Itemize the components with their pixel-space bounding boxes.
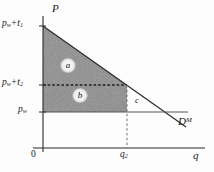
diagram-canvas	[0, 0, 214, 172]
region-label-a: a	[60, 61, 76, 70]
sup-m: M	[186, 116, 192, 124]
price-label-pw-plus-t2: pw+t2	[2, 78, 23, 88]
tariff-welfare-diagram: P q 0 pw+t1 pw+t2 pw q2 DM a b c	[0, 0, 214, 172]
origin-label: 0	[31, 150, 36, 160]
region-label-b: b	[72, 91, 88, 100]
demand-curve-label: DM	[178, 116, 192, 127]
horizontal-axis-label: q	[193, 150, 199, 161]
quantity-label-q2: q2	[120, 150, 128, 160]
price-label-pw-plus-t1: pw+t1	[2, 19, 23, 29]
sub-t1: 1	[20, 22, 23, 28]
sub-t2: 2	[20, 81, 23, 87]
price-label-pw: pw	[18, 105, 27, 115]
region-label-c: c	[131, 96, 143, 105]
vertical-axis-label: P	[52, 3, 59, 14]
sub-q2: 2	[125, 153, 128, 159]
sub-w-3: w	[23, 108, 27, 114]
